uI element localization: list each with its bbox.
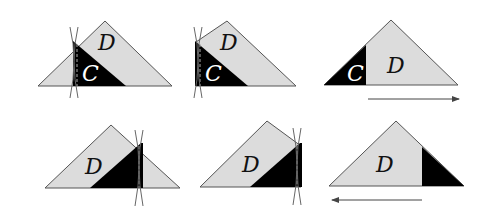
label-d: D	[375, 152, 394, 177]
label-d: D	[386, 53, 405, 78]
label-d: D	[219, 30, 238, 55]
panel-5: D	[200, 121, 302, 205]
label-d: D	[241, 152, 260, 177]
label-c: C	[347, 61, 364, 86]
panel-4: D	[45, 125, 180, 206]
label-d: D	[84, 154, 103, 179]
label-c: C	[82, 61, 99, 86]
panel-2: D C	[194, 21, 296, 98]
label-d: D	[97, 30, 116, 55]
panel-3: C D	[324, 20, 459, 99]
dissection-diagram: D C D C C D D D D	[0, 0, 490, 216]
panel-1: D C	[38, 21, 172, 98]
label-c: C	[205, 61, 222, 86]
panel-6: D	[329, 121, 464, 200]
